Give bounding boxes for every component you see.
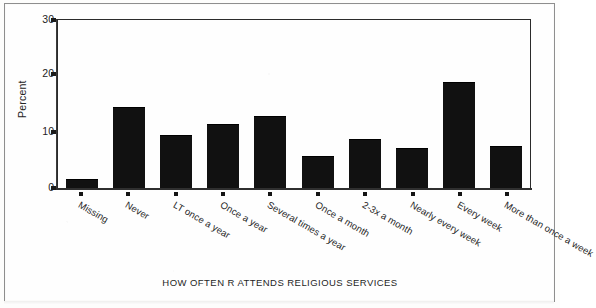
page-bottom-edge (4, 301, 554, 305)
x-axis-tick-mark (174, 192, 178, 196)
bar-slot (388, 20, 435, 188)
bar-slot (247, 20, 294, 188)
x-axis-line (56, 188, 532, 190)
x-axis-tick-mark (268, 192, 272, 196)
bar-never (113, 107, 145, 188)
x-axis-tick-mark (79, 192, 83, 196)
bar-slot (436, 20, 483, 188)
bar-once-a-year (207, 124, 239, 188)
bar-series (58, 20, 530, 188)
x-axis-tick-mark (316, 192, 320, 196)
bar-once-a-month (302, 156, 334, 188)
bar-several-times-a-year (254, 116, 286, 188)
x-axis-tick-mark (411, 192, 415, 196)
y-axis-tick-mark (51, 72, 56, 76)
bar-slot (483, 20, 530, 188)
x-axis-tick-mark (458, 192, 462, 196)
bar-nearly-every-week (396, 148, 428, 188)
bar-slot (152, 20, 199, 188)
y-axis-tick-mark (51, 130, 56, 134)
y-axis-tick-mark (51, 18, 56, 22)
x-axis-tick-mark (126, 192, 130, 196)
bar-slot (105, 20, 152, 188)
plot-area (57, 19, 531, 189)
bar-more-than-once-a-week (490, 146, 522, 188)
x-axis-title-text: HOW OFTEN R ATTENDS RELIGIOUS SERVICES (162, 277, 397, 288)
x-axis-tick-mark (221, 192, 225, 196)
bar-missing (66, 179, 98, 188)
bar-lt-once-a-year (160, 135, 192, 188)
bar-slot (294, 20, 341, 188)
y-axis-title: Percent (16, 80, 28, 118)
bar-slot (58, 20, 105, 188)
x-axis-tick-mark (505, 192, 509, 196)
bar-slot (341, 20, 388, 188)
x-axis-title: HOW OFTEN R ATTENDS RELIGIOUS SERVICES (0, 277, 560, 288)
bar-every-week (443, 82, 475, 188)
x-axis-tick-mark (363, 192, 367, 196)
bar-2-3x-a-month (349, 139, 381, 188)
bar-slot (200, 20, 247, 188)
